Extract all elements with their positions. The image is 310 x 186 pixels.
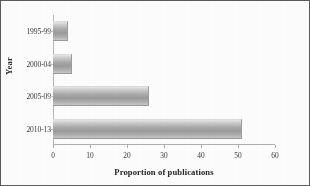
- y-tick-label-1995-99: 1995-99: [15, 27, 51, 36]
- x-tick-label-30: 30: [153, 151, 175, 160]
- plot-area: 0102030405060: [53, 15, 275, 145]
- x-axis-tick: [90, 145, 91, 148]
- x-axis-tick: [275, 145, 276, 148]
- x-tick-label-40: 40: [190, 151, 212, 160]
- bar-row: [53, 21, 68, 41]
- y-axis-title: Year: [4, 42, 14, 90]
- bar-row: [53, 86, 149, 106]
- y-axis-tick-labels: 1995-99 2000-04 2005-09 2010-13: [15, 15, 51, 145]
- y-tick-label-2000-04: 2000-04: [15, 59, 51, 68]
- x-axis-title: Proportion of publications: [53, 167, 275, 177]
- x-tick-label-60: 60: [264, 151, 286, 160]
- x-tick-label-0: 0: [42, 151, 64, 160]
- y-tick-label-2010-13: 2010-13: [15, 124, 51, 133]
- y-axis-tick: [50, 31, 53, 32]
- x-axis-tick: [127, 145, 128, 148]
- bar-row: [53, 119, 242, 139]
- y-axis-tick: [50, 64, 53, 65]
- x-axis-tick: [238, 145, 239, 148]
- x-tick-label-20: 20: [116, 151, 138, 160]
- y-axis-tick: [50, 129, 53, 130]
- y-tick-label-2005-09: 2005-09: [15, 92, 51, 101]
- x-axis-tick: [164, 145, 165, 148]
- x-axis-tick: [201, 145, 202, 148]
- bar-2000-04: [53, 54, 72, 74]
- x-tick-label-10: 10: [79, 151, 101, 160]
- bar-chart-figure: Year 1995-99 2000-04 2005-09 2010-13 010…: [0, 0, 310, 186]
- bar-2005-09: [53, 86, 149, 106]
- y-axis-tick: [50, 96, 53, 97]
- bar-1995-99: [53, 21, 68, 41]
- bar-2010-13: [53, 119, 242, 139]
- bar-row: [53, 54, 72, 74]
- x-tick-label-50: 50: [227, 151, 249, 160]
- x-axis-tick: [53, 145, 54, 148]
